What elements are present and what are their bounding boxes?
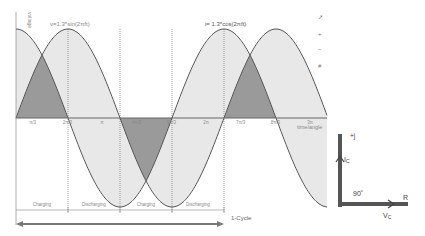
ic-label: IC [344,156,350,164]
vc-label: VC [383,212,392,220]
cycle-label: 1-Cycle [231,215,252,221]
region-label: Discharging [82,202,106,207]
x-tick-label: 5π/3 [167,120,177,125]
angle-label: 90˚ [353,190,363,197]
waveform-chart: π/32π/3π4π/35π/32π7π/38π/33π voltage v=1… [0,0,425,236]
x-tick-label: π [100,120,103,125]
zoom-in-icon[interactable]: + [318,31,322,37]
x-tick-label: 2π/3 [63,120,73,125]
v-curve-label: v=1.3*sin(2πft) [50,21,90,27]
x-tick-label: 8π/3 [271,120,281,125]
region-label: Charging [137,202,156,207]
x-tick-label: π/3 [29,120,36,125]
pointer-icon[interactable]: ➚ [318,14,323,20]
real-axis-label: R [403,194,408,201]
i-curve-label: i= 1.3*cos(2πft) [205,21,246,27]
region-label: Discharging [186,202,210,207]
graph-toolbar: ➚ + − # [318,14,323,69]
x-tick-labels: π/32π/3π4π/35π/32π7π/38π/33π [29,120,313,125]
x-tick-label: 7π/3 [236,120,246,125]
x-tick-label: 2π [203,120,209,125]
phasor-diagram: +j R IC VC 90˚ [336,132,408,220]
real-axis-bar [338,202,408,206]
region-dimension-lines [16,207,224,213]
x-tick-label: 4π/3 [132,120,142,125]
region-label: Charging [33,202,52,207]
x-axis-label: time/angle [297,124,322,130]
imag-axis-label: +j [350,132,355,140]
imaginary-axis-bar [338,134,342,207]
zoom-out-icon[interactable]: − [318,46,322,52]
grid-icon[interactable]: # [318,63,322,69]
cycle-arrow [16,221,224,227]
y-axis-label: voltage [27,12,33,28]
